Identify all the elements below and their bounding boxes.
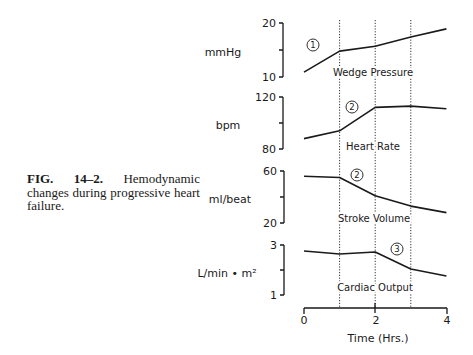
panel-heart-rate: bpm 120 80 Heart Rate 2 [216, 91, 447, 156]
panel-wedge-pressure: mmHg 20 10 Wedge Pressure 1 [205, 17, 447, 84]
y-axis-label: mmHg [205, 46, 242, 59]
y-axis [280, 171, 284, 223]
y-tick-max: 120 [255, 91, 276, 104]
y-tick-min: 10 [262, 71, 276, 84]
y-axis-label: L/min • m² [197, 267, 256, 280]
x-tick-2: 2 [373, 314, 380, 327]
x-tick-4: 4 [444, 314, 451, 327]
series-line [304, 106, 446, 139]
reference-lines [340, 20, 411, 308]
y-axis [280, 245, 284, 295]
svg-text:3: 3 [394, 244, 399, 254]
y-tick-max: 20 [262, 17, 276, 30]
circled-number-marker: 2 [351, 169, 363, 181]
y-axis [279, 23, 283, 77]
svg-text:1: 1 [310, 40, 315, 50]
circled-number-marker: 2 [346, 101, 358, 113]
hemodynamic-chart: mmHg 20 10 Wedge Pressure 1 bpm 120 80 H… [0, 0, 473, 355]
x-tick-0: 0 [301, 314, 308, 327]
circled-number-marker: 3 [391, 243, 403, 255]
series-title: Cardiac Output [337, 282, 413, 293]
svg-text:2: 2 [349, 102, 354, 112]
circled-number-marker: 1 [307, 39, 319, 51]
svg-text:2: 2 [354, 170, 359, 180]
x-axis-label: Time (Hrs.) [346, 332, 408, 345]
y-tick-max: 3 [270, 239, 277, 252]
x-axis-line [304, 303, 447, 314]
series-title: Stroke Volume [338, 213, 410, 224]
y-tick-min: 1 [270, 289, 277, 302]
series-title: Heart Rate [346, 141, 400, 152]
y-axis-label: bpm [216, 119, 241, 132]
panel-cardiac-output: L/min • m² 3 1 Cardiac Output 3 [197, 239, 446, 302]
y-tick-min: 20 [263, 217, 277, 230]
y-tick-max: 60 [263, 165, 277, 178]
series-title: Wedge Pressure [333, 67, 413, 78]
x-axis: 0 2 4 Time (Hrs.) [301, 303, 451, 345]
y-tick-min: 80 [262, 143, 276, 156]
y-axis-label: ml/beat [209, 193, 252, 206]
y-axis [279, 97, 283, 149]
